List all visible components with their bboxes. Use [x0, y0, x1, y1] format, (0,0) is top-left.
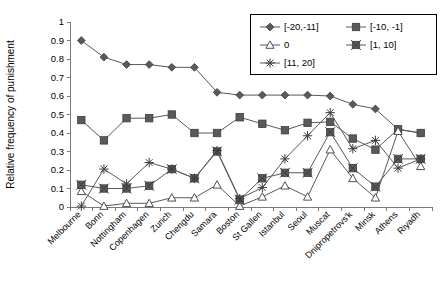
- data-point: [326, 92, 334, 100]
- x-axis-tick-label: Melbourne: [46, 209, 83, 246]
- data-point: [168, 111, 175, 118]
- y-axis-tick-label: 0.2: [51, 164, 64, 175]
- y-axis-tick-label: 0.9: [51, 35, 64, 46]
- data-point: [100, 53, 108, 61]
- x-axis-tick-label: Samara: [189, 209, 218, 238]
- y-axis-tick-label: 0: [59, 201, 64, 212]
- chart-container: 00.10.20.30.40.50.60.70.80.91 Relative f…: [0, 0, 448, 282]
- data-point: [349, 135, 356, 142]
- data-point: [326, 146, 334, 153]
- legend-label: [-10, -1]: [370, 21, 403, 32]
- series-line: [81, 113, 420, 206]
- data-point: [303, 193, 311, 200]
- series-3: [77, 127, 425, 209]
- data-point: [326, 118, 333, 125]
- data-point: [213, 129, 220, 136]
- chart-legend[interactable]: [-20,-11][-10, -1]0[1, 10][11, 20]: [250, 14, 436, 74]
- data-point: [258, 91, 266, 99]
- data-point: [145, 61, 153, 69]
- data-point: [304, 119, 311, 126]
- line-chart: 00.10.20.30.40.50.60.70.80.91 Relative f…: [0, 0, 448, 282]
- legend-box: [250, 14, 436, 74]
- x-axis-tick-label: Istanbul: [257, 209, 286, 238]
- data-point: [145, 115, 152, 122]
- data-point: [281, 182, 289, 189]
- y-axis-tick-label: 0.4: [51, 127, 64, 138]
- y-axis-tick-label: 1: [59, 16, 64, 27]
- series-line: [81, 115, 420, 150]
- data-point: [281, 91, 289, 99]
- series-2: [78, 111, 425, 154]
- y-axis: 00.10.20.30.40.50.60.70.80.91: [51, 16, 70, 212]
- data-point: [77, 37, 85, 45]
- data-point: [213, 181, 221, 188]
- legend-label: [1, 10]: [370, 39, 396, 50]
- y-axis-tick-label: 0.5: [51, 109, 64, 120]
- y-axis-tick-label: 0.7: [51, 72, 64, 83]
- data-point: [236, 114, 243, 121]
- data-point: [123, 115, 130, 122]
- x-axis-tick-label: Athens: [373, 209, 400, 236]
- data-point: [349, 100, 357, 108]
- y-axis-tick-label: 0.1: [51, 183, 64, 194]
- data-point: [236, 91, 244, 99]
- legend-label: [-20,-11]: [284, 21, 319, 32]
- data-point: [259, 120, 266, 127]
- data-point: [258, 193, 266, 200]
- data-point: [78, 116, 85, 123]
- data-point: [191, 129, 198, 136]
- y-axis-title-text: Relative frequency of punishment: [5, 40, 16, 189]
- data-point: [123, 61, 131, 69]
- data-point: [304, 91, 312, 99]
- y-axis-tick-label: 0.8: [51, 53, 64, 64]
- x-axis: [70, 207, 432, 211]
- data-point: [168, 63, 176, 71]
- y-axis-tick-label: 0.6: [51, 90, 64, 101]
- x-axis-tick-labels: MelbourneBonnNottinghamCopenhagenZurichC…: [46, 209, 423, 260]
- data-point: [417, 129, 424, 136]
- data-point: [372, 146, 379, 153]
- x-axis-tick-label: Riyadh: [395, 209, 422, 236]
- data-point: [100, 137, 107, 144]
- data-point: [281, 127, 288, 134]
- y-axis-title: Relative frequency of punishment: [5, 40, 16, 189]
- legend-label: 0: [284, 39, 289, 50]
- y-axis-tick-label: 0.3: [51, 146, 64, 157]
- legend-label: [11, 20]: [284, 57, 315, 68]
- legend-marker: [352, 23, 359, 30]
